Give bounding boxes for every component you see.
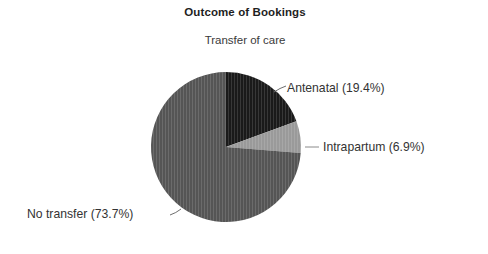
pie-label-no-transfer: No transfer (73.7%) (27, 207, 133, 221)
leader-line-no-transfer (170, 209, 181, 215)
pie-label-intrapartum: Intrapartum (6.9%) (323, 140, 425, 154)
pie-chart-figure: Outcome of Bookings Transfer of care Ant… (0, 0, 488, 254)
pie-label-antenatal: Antenatal (19.4%) (287, 81, 385, 95)
leader-line-antenatal (274, 86, 286, 92)
